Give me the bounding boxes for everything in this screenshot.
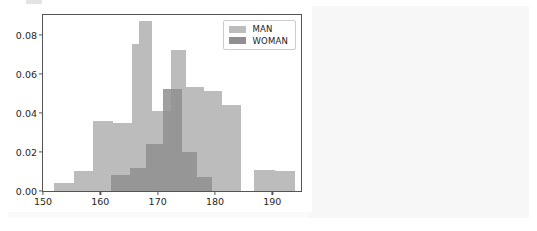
legend-swatch-man-icon	[229, 26, 246, 33]
y-tick-mark	[39, 112, 43, 113]
histogram-bar	[204, 91, 222, 191]
x-tick-mark	[42, 191, 43, 195]
x-tick-mark	[157, 191, 158, 195]
x-tick-mark	[214, 191, 215, 195]
histogram-bar	[111, 175, 130, 191]
histogram-bar	[275, 171, 296, 191]
plot-frame: 0.000.020.040.060.08 150160170180190 MAN…	[42, 14, 302, 192]
legend: MAN WOMAN	[223, 20, 296, 50]
legend-swatch-woman-icon	[229, 37, 246, 44]
histogram-bar	[182, 152, 197, 191]
histogram-bar	[222, 105, 241, 191]
x-tick-mark	[100, 191, 101, 195]
x-tick-mark	[272, 191, 273, 195]
histogram-bar	[254, 170, 275, 192]
y-tick-mark	[39, 73, 43, 74]
histogram-bar	[163, 89, 181, 191]
histogram-bar	[54, 183, 73, 191]
screenshot-root: 0.000.020.040.060.08 150160170180190 MAN…	[0, 0, 537, 231]
histogram-figure: 0.000.020.040.060.08 150160170180190 MAN…	[0, 4, 312, 212]
blank-right-region	[310, 6, 529, 218]
histogram-bar	[146, 144, 163, 191]
histogram-bar	[130, 168, 146, 191]
y-tick-mark	[39, 151, 43, 152]
legend-item-man: MAN	[229, 25, 288, 34]
histogram-bar	[74, 171, 93, 191]
legend-item-woman: WOMAN	[229, 37, 288, 46]
y-tick-mark	[39, 34, 43, 35]
legend-label-man: MAN	[252, 25, 272, 34]
histogram-bar	[197, 177, 212, 191]
legend-label-woman: WOMAN	[252, 37, 288, 46]
